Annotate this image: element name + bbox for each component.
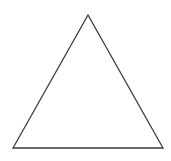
- diagram-canvas: [0, 0, 171, 161]
- triangle-shape: [13, 15, 163, 148]
- triangle-diagram: [0, 0, 171, 161]
